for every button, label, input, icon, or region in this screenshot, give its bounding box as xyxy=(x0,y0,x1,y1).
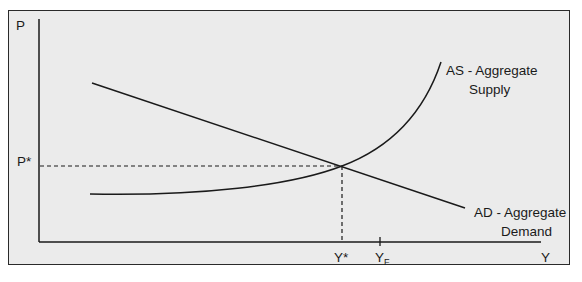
ad-label-line2: Demand xyxy=(501,224,552,239)
yf-label: YF xyxy=(375,250,390,270)
as-label-line2: Supply xyxy=(469,82,510,97)
as-label-line1: AS - Aggregate xyxy=(446,63,538,78)
ad-curve xyxy=(92,83,465,208)
as-curve xyxy=(90,62,441,194)
p-star-label: P* xyxy=(17,154,31,169)
x-axis-label: Y xyxy=(541,250,550,265)
y-star-label: Y* xyxy=(334,250,348,265)
yf-base: Y xyxy=(375,250,384,265)
ad-as-diagram xyxy=(0,0,582,282)
y-axis-label: P xyxy=(16,18,25,33)
ad-label-line1: AD - Aggregate xyxy=(474,205,566,220)
yf-subscript: F xyxy=(384,257,390,267)
